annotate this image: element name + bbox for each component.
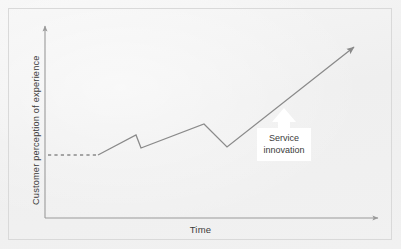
chart-canvas bbox=[0, 0, 401, 249]
x-axis-label: Time bbox=[0, 224, 401, 235]
service-innovation-diagram: Service innovation Customer perception o… bbox=[0, 0, 401, 249]
service-innovation-annotation: Service innovation bbox=[257, 128, 311, 161]
perception-line-series bbox=[98, 47, 354, 155]
annotation-line-2: innovation bbox=[263, 145, 304, 156]
y-axis-label: Customer perception of experience bbox=[31, 55, 41, 205]
annotation-line-1: Service bbox=[269, 133, 299, 144]
